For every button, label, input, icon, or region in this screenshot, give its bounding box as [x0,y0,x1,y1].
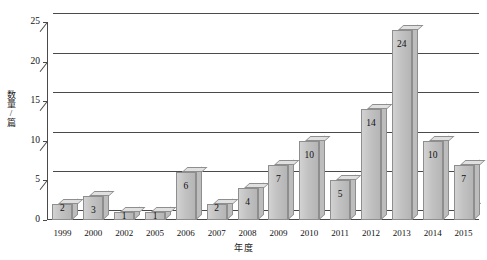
x-tick-label: 2013 [385,228,419,238]
bar-front-face [392,30,412,220]
x-tick-label: 2005 [138,228,172,238]
y-tick-label: 15 [18,96,40,105]
x-tick-label: 2011 [323,228,357,238]
x-tick-label: 2010 [292,228,326,238]
bar-value-label: 3 [82,205,104,215]
bar-value-label: 7 [267,174,289,184]
bar-value-label: 2 [206,203,228,213]
gridline-riser [40,62,48,72]
bar-value-label: 5 [329,189,351,199]
bar [330,180,350,220]
bar-side-face [319,135,325,220]
x-tick-label: 2000 [76,228,110,238]
bar-value-label: 14 [360,118,382,128]
y-axis-title: 数量/篇 [2,90,16,127]
bar-value-label: 1 [113,211,135,221]
bar-side-face [196,167,202,220]
bar-value-label: 24 [391,39,413,49]
y-tick-label: 5 [18,175,40,184]
y-tick-label: 20 [18,57,40,66]
bar-side-face [288,159,294,220]
plot-area: 231162471051424107 [47,10,482,222]
gridline-riser [40,22,48,32]
gridline-riser [40,101,48,111]
gridline-riser [40,180,48,190]
bar-value-label: 10 [422,150,444,160]
x-tick-label: 2009 [261,228,295,238]
x-tick-label: 2015 [447,228,481,238]
gridline [53,13,479,14]
y-tick-label: 25 [18,17,40,26]
x-tick-label: 2006 [169,228,203,238]
bar-value-label: 7 [453,174,475,184]
x-tick-label: 1999 [45,228,79,238]
bar-side-face [443,135,449,220]
bar [392,30,412,220]
bar-value-label: 10 [298,150,320,160]
y-tick-label: 0 [18,215,40,224]
x-tick-label: 2012 [354,228,388,238]
x-tick-label: 2008 [231,228,265,238]
x-axis-title: 年度 [0,241,487,254]
bar-side-face [412,25,418,220]
x-tick-label: 2002 [107,228,141,238]
bar-value-label: 6 [175,181,197,191]
bar-front-face [176,172,196,220]
floor-front-edge [47,219,479,220]
bar-value-label: 1 [144,211,166,221]
bar-value-label: 2 [51,203,73,213]
bar-side-face [474,159,480,220]
bar [176,172,196,220]
bar-value-label: 4 [237,197,259,207]
bar-chart: 数量/篇 0510152025 231162471051424107 19992… [0,0,487,260]
x-tick-label: 2007 [200,228,234,238]
gridline-riser [40,141,48,151]
bar-front-face [330,180,350,220]
y-tick-label: 10 [18,136,40,145]
x-tick-label: 2014 [416,228,450,238]
